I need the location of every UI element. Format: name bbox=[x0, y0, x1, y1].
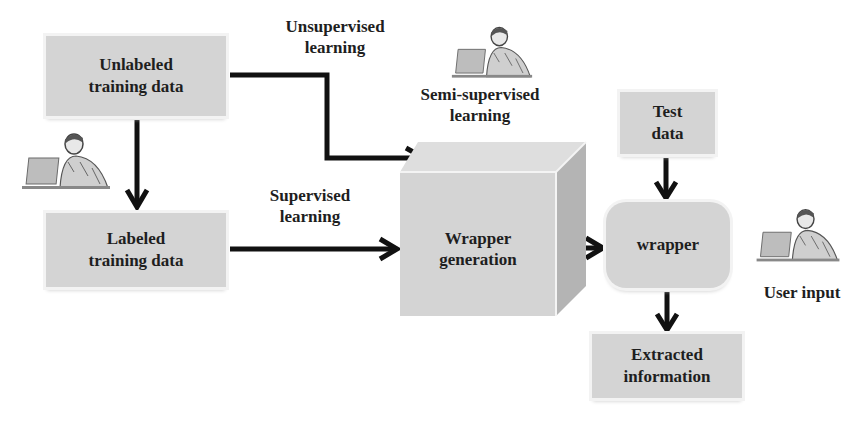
unsupervised-arrow bbox=[230, 75, 424, 168]
unsupervised-line2: learning bbox=[265, 37, 405, 58]
user-input-label: User input bbox=[752, 282, 852, 303]
unsupervised-learning-label: Unsupervised learning bbox=[265, 16, 405, 58]
wrapper-generation-line1: Wrapper bbox=[400, 228, 556, 249]
person-laptop-icon bbox=[18, 128, 114, 196]
semi-supervised-line1: Semi-supervised bbox=[405, 84, 555, 105]
unsupervised-line1: Unsupervised bbox=[265, 16, 405, 37]
unlabeled-line1: Unlabeled bbox=[89, 54, 184, 76]
extracted-information-box: Extracted information bbox=[592, 334, 742, 398]
labeled-training-data-box: Labeled training data bbox=[46, 213, 226, 287]
labeled-arrow bbox=[127, 120, 147, 207]
test-data-line2: data bbox=[651, 123, 683, 145]
unlabeled-line2: training data bbox=[89, 76, 184, 98]
test-data-line1: Test bbox=[651, 101, 683, 123]
person-laptop-icon bbox=[448, 22, 536, 84]
wrapper-to-extracted-arrow bbox=[657, 292, 677, 330]
wrapper-generation-text: Wrapper generation bbox=[400, 228, 556, 270]
supervised-arrow bbox=[230, 239, 397, 259]
person-laptop-icon bbox=[752, 204, 844, 268]
test-to-wrapper-arrow bbox=[656, 158, 676, 198]
wrapper-text: wrapper bbox=[637, 234, 699, 256]
supervised-line2: learning bbox=[245, 206, 375, 227]
user-input-text: User input bbox=[764, 283, 841, 302]
supervised-line1: Supervised bbox=[245, 185, 375, 206]
labeled-line2: training data bbox=[89, 250, 184, 272]
semi-supervised-line2: learning bbox=[405, 105, 555, 126]
labeled-line1: Labeled bbox=[89, 228, 184, 250]
wrapper-box: wrapper bbox=[606, 202, 730, 288]
extracted-line1: Extracted bbox=[624, 344, 711, 366]
unlabeled-training-data-box: Unlabeled training data bbox=[46, 36, 226, 116]
wrapper-generation-line2: generation bbox=[400, 249, 556, 270]
semi-supervised-learning-label: Semi-supervised learning bbox=[405, 84, 555, 126]
supervised-learning-label: Supervised learning bbox=[245, 185, 375, 227]
extracted-line2: information bbox=[624, 366, 711, 388]
test-data-box: Test data bbox=[620, 92, 715, 154]
